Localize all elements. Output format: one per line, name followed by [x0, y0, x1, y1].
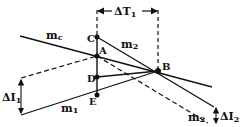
label-e: E — [89, 96, 97, 107]
label-m2: m2 — [121, 38, 138, 51]
label-b: B — [162, 61, 170, 72]
delta-i1-label: ΔI1 — [2, 91, 21, 105]
point-c — [95, 35, 100, 40]
dashed-line-upper — [21, 56, 97, 78]
label-a: A — [98, 45, 107, 56]
label-m2-dashed: m2 — [188, 111, 205, 124]
label-d: D — [87, 73, 96, 84]
label-mc: mc — [46, 29, 63, 42]
delta-i2-label: ΔI2 — [220, 110, 239, 124]
label-m1: m1 — [61, 102, 78, 115]
geometry-diagram: ΔT1 ΔI1 ΔI2 C A D E B mc m2 m1 m2 — [0, 0, 252, 127]
delta-t1-label: ΔT1 — [114, 5, 136, 19]
line-mc — [20, 36, 212, 87]
point-b — [155, 68, 161, 74]
label-c: C — [87, 33, 95, 44]
